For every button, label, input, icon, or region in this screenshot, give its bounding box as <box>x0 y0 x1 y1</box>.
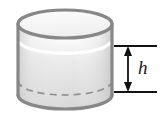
dimension-arrowhead-down <box>124 82 132 92</box>
height-label: h <box>138 58 148 77</box>
cylinder-figure: h <box>0 0 163 134</box>
cylinder-top-face <box>18 10 112 38</box>
dimension-arrowhead-up <box>124 46 132 56</box>
